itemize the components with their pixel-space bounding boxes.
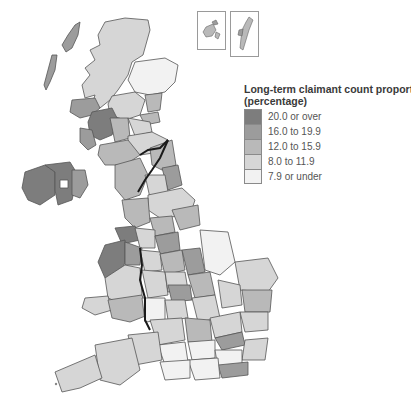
legend-item-8-to-11-9: 8.0 to 11.9 [244,154,409,169]
legend-swatch [244,124,262,139]
region-manchester [135,228,155,248]
region-lanark [110,118,130,142]
legend-label: 8.0 to 11.9 [268,156,315,167]
isles-of-scilly [55,383,57,385]
region-norfolk [235,258,278,292]
region-outer-hebrides [62,22,80,52]
legend: Long-term claimant count proportion1 (pe… [244,83,409,184]
legend-item-16-to-19-9: 16.0 to 19.9 [244,124,409,139]
region-northern-ireland-belfast [72,170,88,198]
legend-title: Long-term claimant count proportion1 [244,83,409,95]
region-worcestershire [165,300,188,320]
legend-swatch [244,154,262,169]
region-lincolnshire [200,230,235,275]
region-leicestershire [188,272,215,298]
region-cumbria [115,158,148,200]
legend-label: 16.0 to 19.9 [268,126,321,137]
region-derbyshire [160,250,185,275]
region-northern-ireland-west [22,165,55,205]
region-cheshire [140,250,162,272]
legend-label: 12.0 to 15.9 [268,141,321,152]
region-shropshire [142,270,168,298]
region-hampshire [188,358,220,380]
legend-subtitle: (percentage) [244,95,409,107]
legend-items: 20.0 or over 16.0 to 19.9 12.0 to 15.9 8… [244,109,409,184]
region-suffolk [242,290,272,312]
region-cambridgeshire [218,280,242,308]
legend-swatch [244,109,262,124]
region-outer-hebrides-south [44,55,57,90]
region-west-midlands [168,285,192,302]
region-cornwall [55,355,102,392]
legend-label: 20.0 or over [268,111,321,122]
legend-swatch [244,139,262,154]
region-berkshire [188,340,215,360]
region-angus [145,93,162,112]
region-essex [240,312,268,332]
inset-shetland [230,11,259,57]
region-south-west-wales [82,296,112,315]
legend-item-12-to-15-9: 12.0 to 15.9 [244,139,409,154]
region-nottingham [182,248,205,275]
inset-orkney [197,11,226,50]
uk-choropleth-map [0,0,411,402]
legend-label: 7.9 or under [268,171,322,182]
region-aberdeenshire [128,58,178,95]
region-kent [242,338,268,360]
region-lancashire [122,198,150,228]
legend-item-7-9-or-under: 7.9 or under [244,169,409,184]
legend-swatch [244,169,262,184]
region-dorset [160,360,190,380]
region-sussex [218,362,248,378]
legend-item-20-or-over: 20.0 or over [244,109,409,124]
region-lough-neagh [60,180,68,188]
region-oxfordshire [185,318,212,342]
